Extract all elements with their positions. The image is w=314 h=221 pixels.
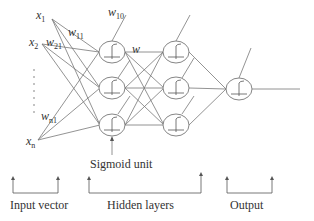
weight-w11-label: w11 (68, 25, 84, 41)
input-x2-label: x2 (29, 35, 38, 51)
weight-w10-label: w10 (108, 5, 124, 21)
input-x1-label: x1 (36, 8, 45, 24)
nodes (99, 41, 252, 136)
input-vector-label: Input vector (10, 198, 68, 213)
sigmoid-arrow-icon (110, 136, 114, 141)
input-xn-label: xn (26, 134, 35, 150)
weight-w21-label: w21 (46, 35, 62, 51)
ellipsis-dots (33, 69, 35, 113)
weight-w-label: w (132, 42, 140, 57)
output-label: Output (230, 198, 263, 213)
weight-wn1-label: wn1 (41, 109, 57, 125)
bracket-arrow-icons (11, 172, 274, 180)
group-brackets (13, 174, 272, 193)
sigmoid-unit-label: Sigmoid unit (90, 157, 152, 172)
hidden-layers-label: Hidden layers (107, 198, 174, 213)
